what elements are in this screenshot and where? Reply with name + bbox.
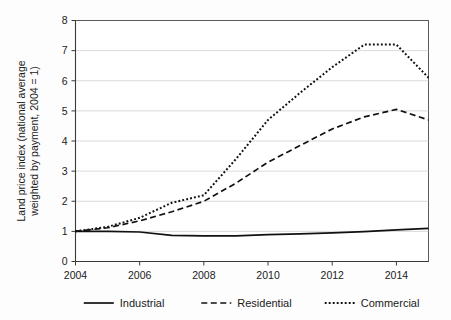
y-axis-title-line-2: weighted by payment, 2004 = 1) [28,66,40,217]
x-tick-label-2004: 2004 [64,269,88,281]
y-tick-label-5: 5 [62,105,68,117]
chart-legend: IndustrialResidentialCommercial [84,297,420,309]
y-tick-label-8: 8 [62,14,68,26]
x-tick-label-2010: 2010 [256,269,280,281]
x-tick-label-2008: 2008 [192,269,216,281]
y-axis-title-line-1: Land price index (national average [15,60,27,221]
chart-figure: 012345678 200420062008201020122014 Land … [0,0,451,320]
x-tick-label-2014: 2014 [385,269,409,281]
x-tick-label-2012: 2012 [321,269,345,281]
y-tick-label-7: 7 [62,44,68,56]
y-axis-tick-labels: 012345678 [62,14,68,267]
y-tick-label-4: 4 [62,135,68,147]
legend-label-industrial: Industrial [120,297,165,309]
x-tick-label-2006: 2006 [128,269,152,281]
legend-label-commercial: Commercial [361,297,420,309]
y-tick-label-6: 6 [62,75,68,87]
y-tick-label-2: 2 [62,195,68,207]
y-tick-label-0: 0 [62,255,68,267]
y-axis-title: Land price index (national average weigh… [15,60,40,221]
legend-label-residential: Residential [237,297,291,309]
line-chart: 012345678 200420062008201020122014 Land … [0,0,451,320]
y-tick-label-1: 1 [62,225,68,237]
y-tick-label-3: 3 [62,165,68,177]
